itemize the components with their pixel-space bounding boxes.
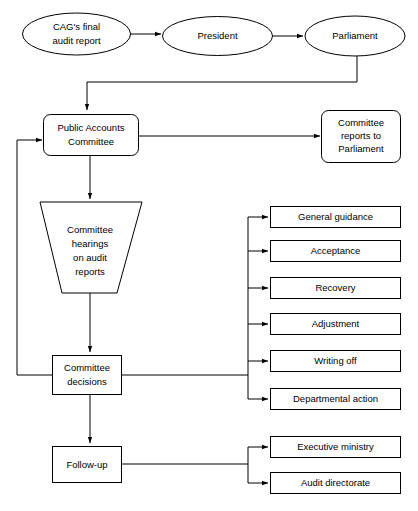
node-follow-up[interactable]: Follow-up (53, 447, 122, 483)
followup-target-label-0: Executive ministry (297, 441, 374, 452)
node-label-parliament: Parliament (332, 30, 378, 41)
node-label-pac-line1: Public Accounts (57, 122, 124, 133)
connector-parliament-to-pac (87, 56, 357, 110)
outcome-label-3: Adjustment (312, 318, 360, 329)
node-committee-reports-to-parliament[interactable]: Committee reports to Parliament (322, 111, 401, 163)
node-label-reports-line3: Parliament (338, 143, 384, 154)
outcome-label-4: Writing off (314, 355, 357, 366)
node-label-followup: Follow-up (66, 459, 107, 470)
node-public-accounts-committee[interactable]: Public Accounts Committee (44, 115, 139, 156)
node-president[interactable]: President (163, 17, 273, 56)
node-committee-decisions[interactable]: Committee decisions (53, 356, 122, 395)
node-label-hearings-line3: on audit (73, 252, 107, 263)
node-label-hearings-line2: hearings (72, 238, 109, 249)
node-label-reports-line2: reports to (341, 130, 381, 141)
node-outcome-acceptance[interactable]: Acceptance (271, 241, 401, 262)
node-outcome-recovery[interactable]: Recovery (271, 278, 401, 299)
node-label-cag-line2: audit report (52, 35, 100, 46)
node-outcome-writing-off[interactable]: Writing off (271, 351, 401, 372)
node-outcome-departmental-action[interactable]: Departmental action (271, 389, 401, 410)
node-label-decisions-line2: decisions (67, 376, 107, 387)
node-label-pac-line2: Committee (68, 136, 114, 147)
outcome-label-5: Departmental action (293, 393, 378, 404)
connector-decisions-feedback-to-pac (17, 140, 52, 375)
node-label-decisions-line1: Committee (64, 362, 110, 373)
node-label-hearings-line4: reports (75, 266, 105, 277)
outcome-label-2: Recovery (315, 282, 355, 293)
node-outcome-adjustment[interactable]: Adjustment (271, 314, 401, 335)
node-committee-hearings[interactable]: Committee hearings on audit reports (40, 202, 142, 293)
node-outcome-general-guidance[interactable]: General guidance (271, 207, 401, 228)
flowchart-diagram: CAG's final audit report President Parli… (0, 0, 418, 511)
node-target-audit-directorate[interactable]: Audit directorate (271, 473, 401, 494)
node-parliament[interactable]: Parliament (305, 16, 405, 56)
node-label-president: President (197, 30, 237, 41)
outcome-label-1: Acceptance (311, 245, 361, 256)
node-target-executive-ministry[interactable]: Executive ministry (271, 437, 401, 458)
node-cag-final-audit-report[interactable]: CAG's final audit report (23, 13, 131, 55)
outcome-label-0: General guidance (298, 211, 373, 222)
node-label-reports-line1: Committee (338, 117, 384, 128)
flowchart-canvas: CAG's final audit report President Parli… (0, 0, 418, 511)
node-label-hearings-line1: Committee (67, 224, 113, 235)
node-label-cag-line1: CAG's final (53, 21, 100, 32)
followup-target-label-1: Audit directorate (301, 477, 370, 488)
